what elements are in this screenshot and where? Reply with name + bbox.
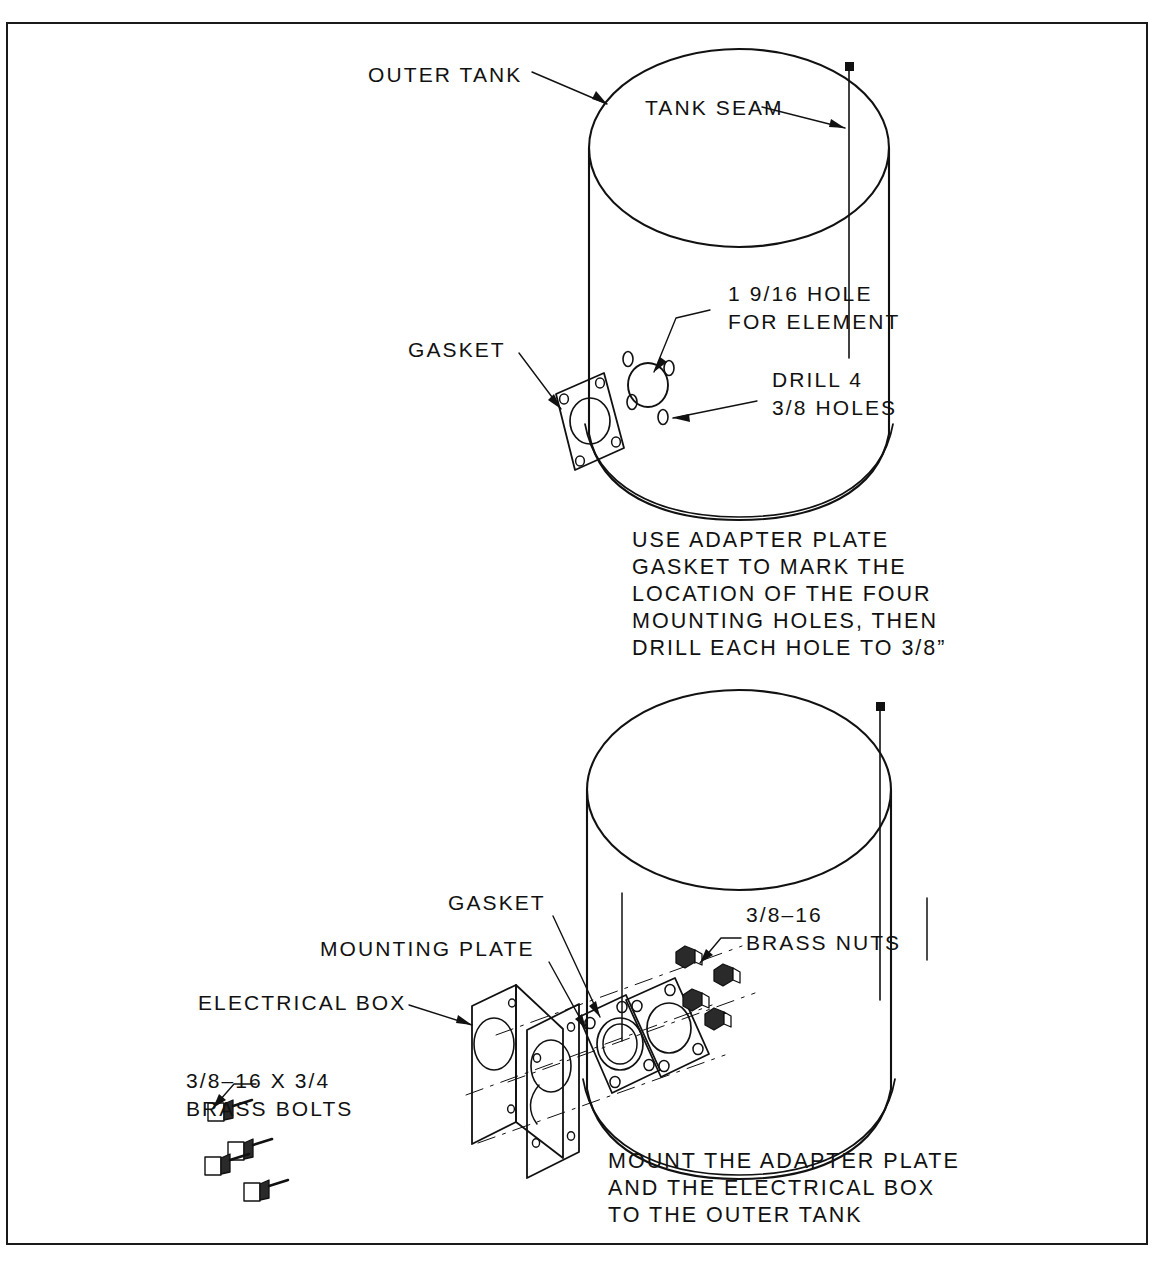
label-electrical-box: ELECTRICAL BOX xyxy=(198,990,406,1016)
label-drill-holes-line1: DRILL 4 xyxy=(772,367,863,393)
label-outer-tank: OUTER TANK xyxy=(368,62,522,88)
label-brass-bolts-line1: 3/8–16 X 3/4 xyxy=(186,1068,330,1094)
label-brass-bolts-line2: BRASS BOLTS xyxy=(186,1096,353,1122)
instruction-use-adapter-line4: MOUNTING HOLES, THEN xyxy=(632,608,938,635)
label-brass-nuts-line1: 3/8–16 xyxy=(746,902,823,928)
instruction-mount-adapter-line1: MOUNT THE ADAPTER PLATE xyxy=(608,1148,960,1175)
label-brass-nuts-line2: BRASS NUTS xyxy=(746,930,901,956)
label-drill-holes-line2: 3/8 HOLES xyxy=(772,395,897,421)
label-lower-gasket: GASKET xyxy=(448,890,546,916)
instruction-mount-adapter-line3: TO THE OUTER TANK xyxy=(608,1202,863,1229)
label-mounting-plate: MOUNTING PLATE xyxy=(320,936,535,962)
instruction-mount-adapter-line2: AND THE ELECTRICAL BOX xyxy=(608,1175,935,1202)
instruction-use-adapter-line3: LOCATION OF THE FOUR xyxy=(632,581,932,608)
technical-drawing-page: OUTER TANK TANK SEAM 1 9/16 HOLE FOR ELE… xyxy=(0,0,1155,1266)
instruction-use-adapter-line5: DRILL EACH HOLE TO 3/8” xyxy=(632,635,946,662)
label-element-hole-line1: 1 9/16 HOLE xyxy=(728,281,873,307)
label-element-hole-line2: FOR ELEMENT xyxy=(728,309,900,335)
label-tank-seam: TANK SEAM xyxy=(645,95,784,121)
instruction-use-adapter-line1: USE ADAPTER PLATE xyxy=(632,527,889,554)
instruction-use-adapter-line2: GASKET TO MARK THE xyxy=(632,554,907,581)
drawing-border-frame xyxy=(6,22,1148,1245)
label-upper-gasket: GASKET xyxy=(408,337,506,363)
